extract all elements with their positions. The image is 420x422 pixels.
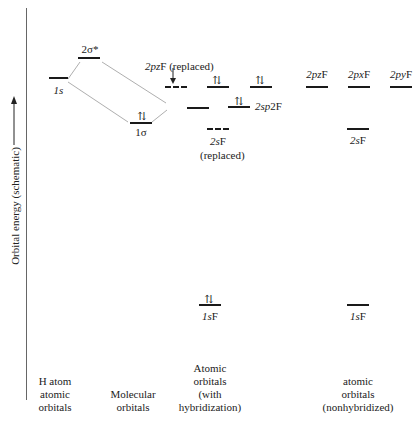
electrons-hyb-1s: ⇅ (202, 294, 216, 304)
label-hyb-1s: 1sF (199, 310, 221, 322)
electrons-hyb-upper-1: ⇅ (210, 75, 224, 85)
level-h-1s (49, 77, 68, 79)
label-nh-2pz: 2pzF (306, 68, 328, 80)
label-nh-2s: 2sF (347, 134, 369, 146)
label-sigma: 1σ (130, 126, 152, 138)
label-sp2: 2sp2F (255, 100, 282, 112)
level-pz-replaced (165, 86, 187, 88)
label-sigma-star: 2σ* (78, 43, 102, 55)
level-hyb-upper-2 (250, 86, 272, 88)
electrons-sp2: ⇅ (232, 96, 246, 106)
label-nh-2py: 2pyF (390, 68, 412, 80)
label-pz-replaced: 2pzF (replaced) (145, 60, 235, 72)
level-nh-1s (347, 304, 369, 306)
level-hyb-bonding (187, 107, 209, 109)
label-h-1s: 1s (49, 84, 68, 96)
level-nh-2s (347, 128, 369, 130)
column-label-nonhybridized: atomicorbitals(nonhybridized) (318, 375, 398, 414)
electrons-sigma: ⇅ (135, 111, 149, 121)
level-s-replaced (207, 128, 229, 130)
up-arrow-icon (11, 96, 17, 104)
level-sigma-star (78, 57, 100, 59)
level-nh-2py (390, 86, 412, 88)
level-nh-2px (348, 86, 370, 88)
level-hyb-1s (199, 304, 221, 306)
level-sp2 (228, 106, 250, 108)
column-label-h-atom: H atomatomicorbitals (30, 375, 80, 414)
label-nh-1s: 1sF (347, 310, 369, 322)
level-nh-2pz (306, 86, 328, 88)
label-s-replaced: 2sF(replaced) (200, 134, 236, 162)
column-label-hybridized: Atomicorbitals(withhybridization) (170, 362, 250, 414)
electrons-hyb-upper-2: ⇅ (253, 75, 267, 85)
down-arrow-icon (170, 78, 176, 84)
column-label-molecular: Molecularorbitals (108, 388, 158, 414)
level-hyb-upper-1 (207, 86, 229, 88)
label-nh-2px: 2pxF (348, 68, 370, 80)
level-sigma (130, 122, 152, 124)
